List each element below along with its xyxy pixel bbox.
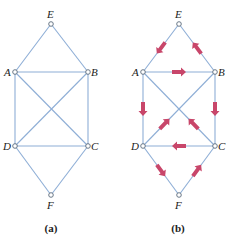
node-A: [141, 70, 146, 75]
node-F: [177, 193, 182, 198]
node-E: [177, 22, 182, 27]
node-D: [141, 144, 146, 149]
directed-graph-diagram: EABDCF(a) EABDCF(b): [0, 0, 230, 240]
node-label-C: C: [218, 140, 226, 152]
arrow-B-to-C-icon: [211, 102, 220, 116]
node-label-F: F: [46, 199, 54, 211]
node-B: [213, 70, 218, 75]
node-label-E: E: [174, 8, 182, 20]
node-label-D: D: [130, 140, 139, 152]
node-label-E: E: [46, 8, 54, 20]
arrow-D-to-F-icon: [153, 162, 169, 179]
node-D: [13, 144, 18, 149]
arrow-B-to-E-icon: [189, 40, 205, 57]
arrow-A-to-D-icon: [139, 102, 148, 116]
node-label-F: F: [174, 199, 182, 211]
arrow-F-to-C-icon: [189, 162, 205, 179]
node-label-A: A: [131, 66, 139, 78]
figure-a-undirected-graph: EABDCF(a): [2, 8, 99, 235]
arrow-C-to-D-icon: [172, 142, 186, 151]
node-E: [49, 22, 54, 27]
node-C: [213, 144, 218, 149]
node-label-A: A: [3, 66, 11, 78]
figure-b-directed-graph: EABDCF(b): [130, 8, 226, 235]
node-label-B: B: [218, 66, 225, 78]
node-label-B: B: [91, 66, 98, 78]
edge-EB: [51, 24, 88, 72]
node-B: [86, 70, 91, 75]
edge-EA: [15, 24, 51, 72]
arrow-A-to-B-icon: [172, 68, 186, 77]
node-C: [86, 144, 91, 149]
figure-caption-b: (b): [171, 222, 185, 235]
node-F: [49, 193, 54, 198]
node-label-D: D: [2, 140, 11, 152]
node-label-C: C: [91, 140, 99, 152]
edge-DF: [15, 146, 51, 195]
node-A: [13, 70, 18, 75]
arrow-E-to-A-icon: [153, 40, 169, 57]
figure-caption-a: (a): [45, 222, 58, 235]
edge-CF: [51, 146, 88, 195]
